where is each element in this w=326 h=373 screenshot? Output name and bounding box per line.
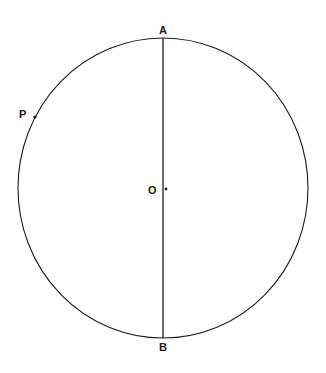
vertex-label-p: P (19, 109, 26, 120)
center-point-marker (165, 188, 168, 191)
vertex-label-o: O (148, 185, 157, 196)
vertex-label-b: B (159, 342, 167, 353)
vertex-label-a: A (159, 25, 167, 36)
point-p-marker (33, 115, 36, 118)
geometry-figure-svg (0, 0, 326, 373)
geometry-figure-canvas: A B O P (0, 0, 326, 373)
